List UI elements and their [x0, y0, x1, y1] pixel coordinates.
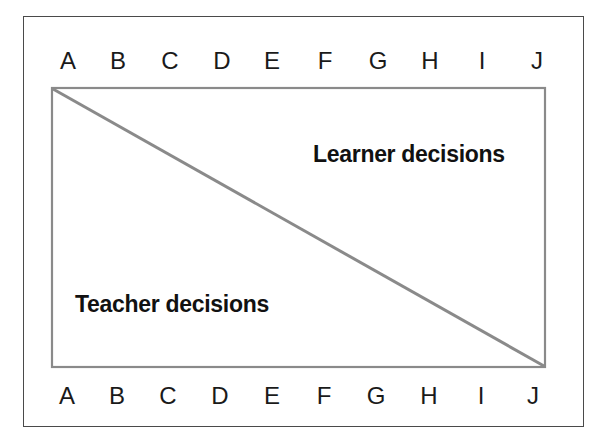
bottom-letter-b: B [102, 381, 132, 411]
bottom-letter-i: I [466, 381, 496, 411]
diagonal-divider [53, 89, 544, 366]
bottom-letter-d: D [205, 381, 235, 411]
learner-decisions-label: Learner decisions [313, 140, 505, 168]
bottom-letter-a: A [52, 381, 82, 411]
bottom-letter-f: F [309, 381, 339, 411]
bottom-letter-c: C [153, 381, 183, 411]
bottom-letter-h: H [414, 381, 444, 411]
continuum-diagram [0, 0, 595, 440]
bottom-letter-e: E [257, 381, 287, 411]
bottom-letter-j: J [518, 381, 548, 411]
bottom-letter-scale: A B C D E F G H I J [0, 381, 595, 411]
bottom-letter-g: G [361, 381, 391, 411]
teacher-decisions-label: Teacher decisions [75, 290, 269, 318]
